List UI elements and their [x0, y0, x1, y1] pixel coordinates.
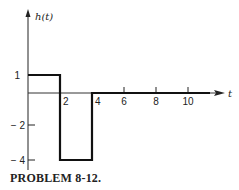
y-tick-label-m2: − 2 [11, 120, 26, 131]
step-function-plot: h(t) t 1 − 2 − 4 2 4 6 8 10 [0, 0, 239, 190]
y-tick-label-m4: − 4 [11, 155, 26, 166]
x-tick-label-4: 4 [95, 96, 101, 107]
h-of-t-step-curve [28, 75, 210, 160]
y-axis-arrow-icon [26, 9, 31, 17]
x-tick-label-10: 10 [182, 96, 194, 107]
x-tick-label-6: 6 [121, 96, 127, 107]
y-tick-label-1: 1 [14, 70, 20, 81]
y-axis-label: h(t) [35, 11, 53, 22]
x-tick-label-2: 2 [63, 96, 69, 107]
x-tick-label-8: 8 [153, 96, 159, 107]
x-axis-label: t [228, 88, 233, 99]
figure-caption: PROBLEM 8-12. [10, 171, 101, 186]
